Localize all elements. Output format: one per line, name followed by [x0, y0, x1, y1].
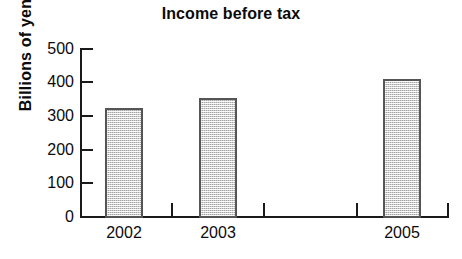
y-tick-mark-100 — [82, 182, 93, 184]
x-tick-label-2003: 2003 — [178, 224, 258, 242]
y-tick-mark-400 — [82, 81, 93, 83]
bar-2005[interactable] — [383, 79, 421, 218]
y-tick-label-400-holder: 400 — [28, 73, 74, 91]
y-tick-label-300: 300 — [28, 107, 74, 125]
y-tick-label-400: 400 — [28, 73, 74, 91]
y-tick-label-200: 200 — [28, 141, 74, 159]
bar-2003[interactable] — [199, 98, 237, 218]
y-tick-label-500: 500 — [28, 40, 74, 58]
y-tick-mark-0 — [82, 216, 93, 218]
y-tick-label-100-holder: 100 — [28, 174, 74, 192]
y-tick-label-0-holder: 0 — [28, 208, 74, 226]
y-tick-mark-200 — [82, 149, 93, 151]
bar-chart: Income before tax Billions of yen 500 40… — [0, 0, 462, 259]
y-tick-label-300-holder: 300 — [28, 107, 74, 125]
y-tick-mark-500 — [82, 48, 93, 50]
x-tick-label-2002: 2002 — [84, 224, 164, 242]
x-tick-mark-4 — [447, 203, 449, 216]
y-axis-line — [80, 48, 82, 218]
x-tick-mark-3 — [356, 203, 358, 216]
y-tick-label-200-holder: 200 — [28, 141, 74, 159]
y-tick-label-100: 100 — [28, 174, 74, 192]
y-tick-label-0: 0 — [28, 208, 74, 226]
chart-title: Income before tax — [0, 5, 462, 23]
y-tick-label-500-holder: 500 — [28, 40, 74, 58]
x-tick-label-2005: 2005 — [362, 224, 442, 242]
x-tick-mark-2 — [263, 203, 265, 216]
y-tick-mark-300 — [82, 115, 93, 117]
bar-2002[interactable] — [105, 108, 143, 218]
x-tick-mark-1 — [171, 203, 173, 216]
